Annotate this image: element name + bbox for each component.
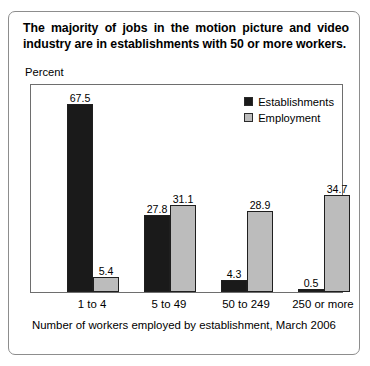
- x-tick-label-5-to-49: 5 to 49: [152, 298, 187, 310]
- bar-value-employment-50-to-249: 28.9: [250, 199, 271, 211]
- y-axis-label: Percent: [25, 66, 64, 78]
- x-tick-label-50-to-249: 50 to 249: [222, 298, 270, 310]
- bar-establishments-5-to-49: 27.8: [144, 215, 170, 292]
- bar-group-250-or-more: 0.5 34.7: [298, 85, 350, 292]
- x-axis-caption: Number of workers employed by establishm…: [9, 319, 359, 331]
- bar-employment-5-to-49: 31.1: [170, 205, 196, 292]
- chart-figure: The majority of jobs in the motion pictu…: [8, 11, 360, 355]
- x-tick-label-250-or-more: 250 or more: [292, 298, 353, 310]
- bar-value-employment-5-to-49: 31.1: [173, 193, 194, 205]
- bar-value-employment-1-to-4: 5.4: [99, 265, 114, 277]
- bar-employment-250-or-more: 34.7: [324, 195, 350, 292]
- chart-title: The majority of jobs in the motion pictu…: [23, 20, 349, 52]
- plot-inner: Establishments Employment 67.5 5.4: [31, 85, 342, 292]
- bar-value-establishments-1-to-4: 67.5: [70, 92, 91, 104]
- bar-value-establishments-250-or-more: 0.5: [304, 277, 319, 289]
- bar-establishments-250-or-more: 0.5: [298, 289, 324, 292]
- bar-establishments-50-to-249: 4.3: [221, 280, 247, 292]
- bar-group-5-to-49: 27.8 31.1: [144, 85, 196, 292]
- bar-employment-50-to-249: 28.9: [247, 211, 273, 292]
- bar-group-1-to-4: 67.5 5.4: [67, 85, 119, 292]
- bar-value-establishments-50-to-249: 4.3: [227, 268, 242, 280]
- plot-area: Establishments Employment 67.5 5.4: [30, 84, 343, 293]
- bar-employment-1-to-4: 5.4: [93, 277, 119, 292]
- bar-value-establishments-5-to-49: 27.8: [147, 203, 168, 215]
- x-tick-label-1-to-4: 1 to 4: [78, 298, 107, 310]
- bar-establishments-1-to-4: 67.5: [67, 104, 93, 292]
- bar-value-employment-250-or-more: 34.7: [327, 183, 348, 195]
- bar-group-50-to-249: 4.3 28.9: [221, 85, 273, 292]
